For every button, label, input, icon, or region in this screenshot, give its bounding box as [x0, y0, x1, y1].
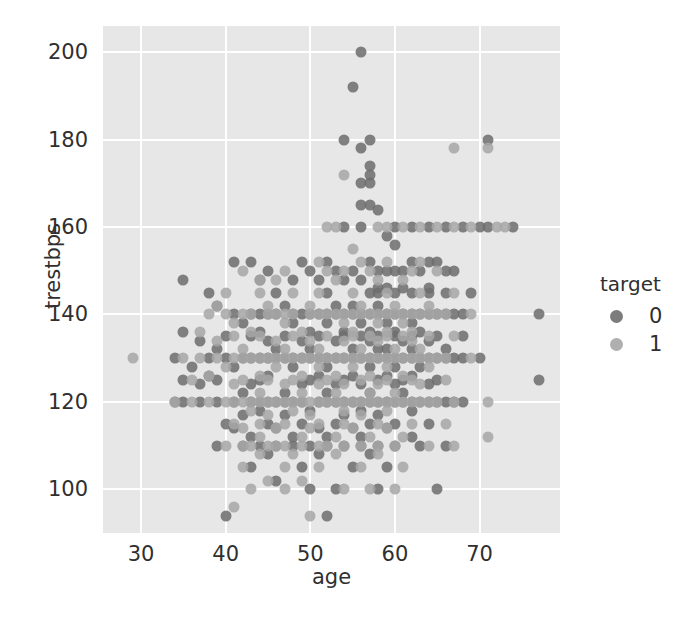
- data-point: [381, 462, 392, 473]
- data-point: [330, 222, 341, 233]
- data-point: [339, 405, 350, 416]
- data-point: [220, 440, 231, 451]
- data-point: [440, 375, 451, 386]
- data-point: [212, 335, 223, 346]
- data-point: [263, 409, 274, 420]
- data-point: [449, 331, 460, 342]
- data-point: [178, 353, 189, 364]
- x-tick-label: 70: [466, 542, 493, 566]
- x-tick-label: 30: [128, 542, 155, 566]
- data-point: [203, 396, 214, 407]
- data-point: [483, 396, 494, 407]
- data-point: [440, 353, 451, 364]
- data-point: [339, 265, 350, 276]
- x-tick-label: 50: [297, 542, 324, 566]
- legend-marker-icon: [610, 338, 623, 351]
- data-point: [169, 396, 180, 407]
- x-tick-label: 60: [382, 542, 409, 566]
- data-point: [373, 274, 384, 285]
- gridline-horizontal: [103, 51, 560, 53]
- data-point: [296, 475, 307, 486]
- data-point: [195, 326, 206, 337]
- data-point: [263, 375, 274, 386]
- data-point: [186, 361, 197, 372]
- data-point: [296, 440, 307, 451]
- data-point: [339, 134, 350, 145]
- legend-item[interactable]: 0: [600, 302, 662, 330]
- legend-item[interactable]: 1: [600, 330, 662, 358]
- data-point: [246, 257, 257, 268]
- data-point: [415, 257, 426, 268]
- data-point: [279, 265, 290, 276]
- data-point: [220, 510, 231, 521]
- data-point: [356, 440, 367, 451]
- x-axis-title: age: [103, 565, 560, 589]
- data-point: [271, 287, 282, 298]
- data-point: [186, 375, 197, 386]
- data-point: [423, 331, 434, 342]
- plot-area: [103, 26, 560, 533]
- data-point: [373, 335, 384, 346]
- data-point: [203, 309, 214, 320]
- data-point: [322, 331, 333, 342]
- data-point: [339, 379, 350, 390]
- data-point: [398, 222, 409, 233]
- data-point: [254, 449, 265, 460]
- data-point: [246, 309, 257, 320]
- data-point: [466, 353, 477, 364]
- data-point: [322, 510, 333, 521]
- data-point: [432, 222, 443, 233]
- data-point: [279, 462, 290, 473]
- data-point: [381, 423, 392, 434]
- data-point: [466, 309, 477, 320]
- data-point: [271, 361, 282, 372]
- data-point: [288, 405, 299, 416]
- data-point: [220, 361, 231, 372]
- data-point: [263, 475, 274, 486]
- data-point: [330, 274, 341, 285]
- data-point: [347, 423, 358, 434]
- data-point: [229, 331, 240, 342]
- data-point: [432, 484, 443, 495]
- data-point: [127, 353, 138, 364]
- data-point: [373, 204, 384, 215]
- data-point: [246, 484, 257, 495]
- legend-marker-icon: [610, 310, 623, 323]
- data-point: [195, 353, 206, 364]
- data-point: [254, 274, 265, 285]
- data-point: [449, 143, 460, 154]
- data-point: [466, 222, 477, 233]
- data-point: [296, 462, 307, 473]
- data-point: [415, 222, 426, 233]
- data-point: [415, 379, 426, 390]
- data-point: [178, 326, 189, 337]
- data-point: [229, 318, 240, 329]
- data-point: [364, 484, 375, 495]
- data-point: [415, 287, 426, 298]
- data-point: [373, 449, 384, 460]
- data-point: [423, 440, 434, 451]
- data-point: [381, 405, 392, 416]
- gridline-vertical: [479, 26, 481, 533]
- data-point: [305, 510, 316, 521]
- data-point: [313, 274, 324, 285]
- data-point: [356, 47, 367, 58]
- y-tick-label: 200: [20, 40, 88, 64]
- data-point: [186, 396, 197, 407]
- data-point: [279, 484, 290, 495]
- gridline-vertical: [394, 26, 396, 533]
- data-point: [398, 431, 409, 442]
- data-point: [381, 222, 392, 233]
- data-point: [381, 361, 392, 372]
- data-point: [406, 265, 417, 276]
- data-point: [220, 287, 231, 298]
- data-point: [373, 379, 384, 390]
- data-point: [449, 265, 460, 276]
- legend-title: target: [600, 272, 662, 296]
- data-point: [279, 318, 290, 329]
- y-tick-label: 180: [20, 128, 88, 152]
- data-point: [339, 335, 350, 346]
- data-point: [398, 274, 409, 285]
- data-point: [288, 274, 299, 285]
- data-point: [449, 440, 460, 451]
